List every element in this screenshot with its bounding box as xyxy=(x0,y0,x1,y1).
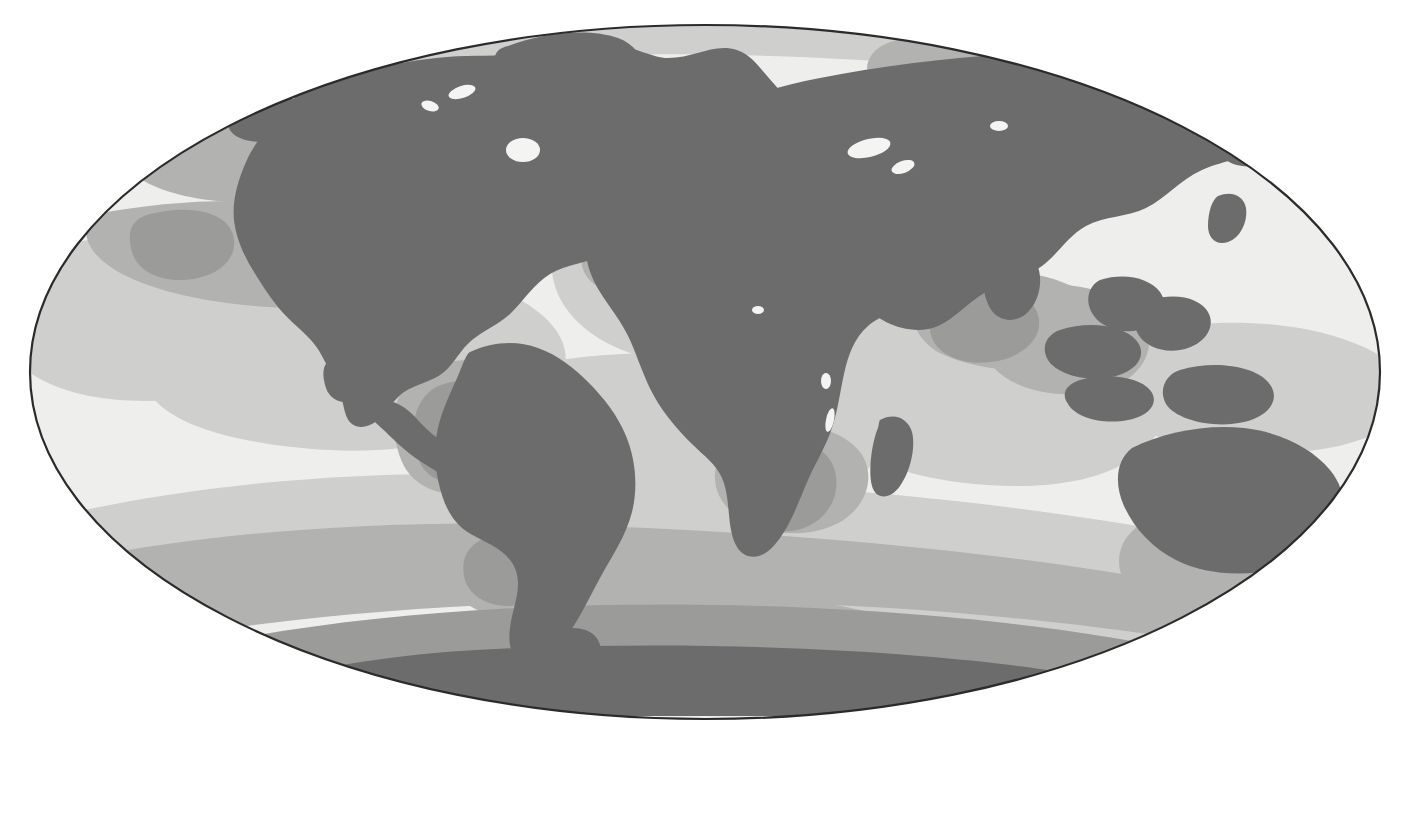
world-map xyxy=(0,0,1407,740)
primary-production-figure: Primary production (gC/m2/yr) <40 40 – 1… xyxy=(0,0,1407,823)
map-legend: Primary production (gC/m2/yr) <40 40 – 1… xyxy=(0,742,1407,823)
